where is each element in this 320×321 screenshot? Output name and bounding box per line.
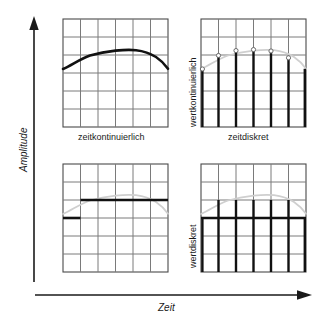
- y-axis-label: Amplitude: [18, 128, 29, 172]
- column-label-zeitkontinuierlich: zeitkontinuierlich: [78, 132, 145, 142]
- x-axis-arrow: [35, 290, 312, 300]
- row-label-wertkontinuierlich: wertkontinuierlich: [188, 57, 198, 127]
- panel-zeitdiskret: [200, 19, 306, 127]
- column-label-zeitdiskret: zeitdiskret: [228, 132, 269, 142]
- panel-digital: [201, 164, 306, 272]
- y-axis-arrow: [29, 16, 38, 282]
- figure-canvas: zeitkontinuierlich zeitdiskret wertkonti…: [0, 0, 320, 321]
- panel-wertdiskret: [63, 164, 168, 272]
- signal-classes-diagram: [0, 0, 320, 321]
- row-label-wertdiskret: wertdiskret: [188, 224, 198, 268]
- sample-stems: [202, 50, 304, 127]
- digital-sample-stems: [202, 200, 304, 272]
- panel-analog: [63, 19, 168, 127]
- x-axis-label: Zeit: [158, 302, 175, 313]
- panel-analog-grid: [63, 19, 168, 127]
